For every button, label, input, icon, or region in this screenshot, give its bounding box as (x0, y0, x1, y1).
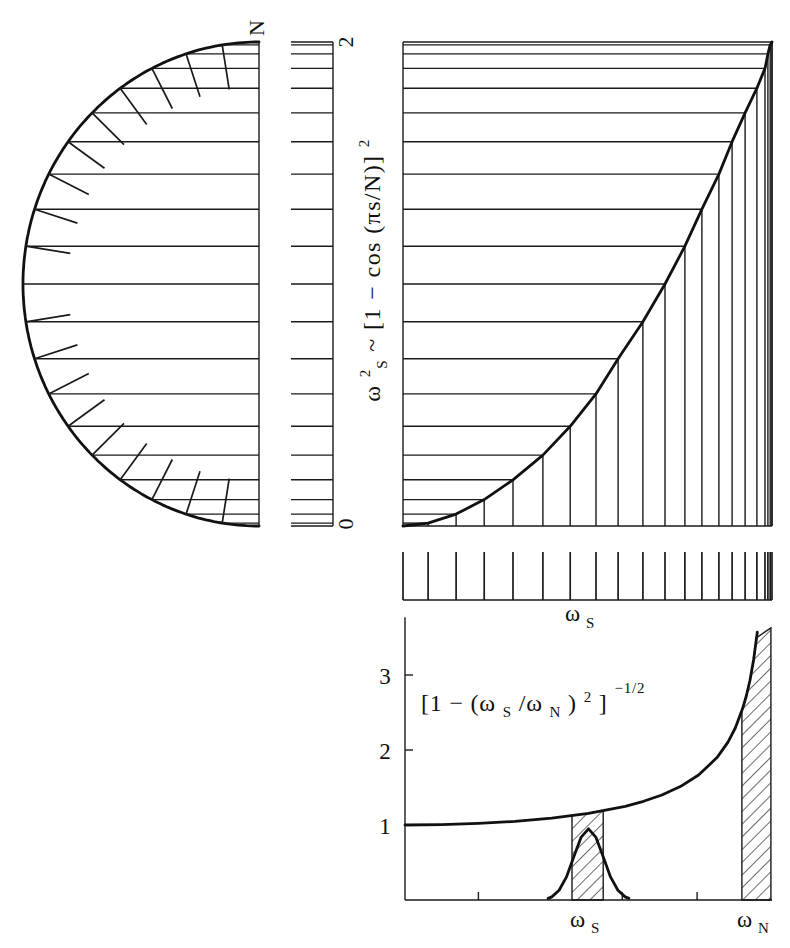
radial-tick (222, 45, 229, 89)
subscript: S (586, 615, 594, 631)
amplitude-curve (405, 632, 757, 825)
amplitude-geometry (405, 617, 772, 900)
dispersion-geometry (403, 42, 772, 526)
dispersion-plot (403, 42, 772, 526)
superscript: 2 (584, 689, 592, 705)
radial-tick (26, 315, 71, 322)
level-scale-bar: 2 0 ω 2 S ~ [1 − cos (πs/N)] 2 (291, 37, 392, 530)
superscript: 2 (356, 138, 372, 147)
formula-close: ) (568, 690, 577, 716)
subscript: N (550, 704, 562, 720)
radial-tick (120, 88, 147, 124)
curve-formula-label: [1 − (ω S /ω N ) 2 ] −1/2 (421, 680, 645, 722)
scale-bottom-tick-label: 0 (333, 519, 358, 530)
formula-bracket: ] (599, 690, 608, 716)
radial-tick (92, 423, 124, 455)
radial-tick (120, 443, 147, 479)
omega-symbol: ω (737, 907, 752, 932)
superscript: 2 (357, 368, 373, 377)
hatched-band-2 (742, 628, 771, 900)
subscript: S (591, 920, 599, 936)
semicircle-geometry (23, 42, 259, 526)
radial-tick (26, 246, 71, 253)
omega-symbol: ω (359, 385, 385, 402)
radial-tick (49, 174, 89, 195)
subscript: S (374, 359, 390, 369)
figure: N 2 0 ω 2 S ~ [1 − cos (πs/N)] 2 ω S 3 2… (0, 0, 790, 948)
x-label-omega-n: ω N (737, 907, 769, 936)
frequency-tick-bar: ω S (403, 552, 772, 631)
radial-tick (68, 400, 104, 427)
x-label-omega-s: ω S (570, 907, 599, 936)
radial-tick (68, 142, 104, 169)
hatched-band-1 (572, 811, 603, 901)
semicircle-top-label: N (244, 20, 269, 36)
radial-tick (222, 479, 229, 523)
radial-tick (35, 345, 78, 359)
semicircle-panel: N (23, 20, 269, 526)
y-tick-label-1: 1 (379, 814, 391, 839)
formula-open: [1 − (ω (421, 690, 496, 716)
dispersion-y-axis-label: ω 2 S ~ [1 − cos (πs/N)] 2 (349, 138, 392, 402)
omega-symbol: ω (570, 907, 585, 932)
subscript: S (503, 704, 512, 720)
amplitude-plot: 3 2 1 [1 − (ω S /ω N ) 2 ] −1/2 ω S ω N (379, 617, 772, 936)
radial-tick (49, 373, 89, 394)
radial-tick (92, 113, 124, 145)
tick-bar-x-label: ω S (565, 601, 594, 631)
tick-bar-geometry (403, 552, 772, 600)
scale-bar-geometry (291, 42, 333, 526)
y-tick-label-3: 3 (379, 664, 391, 689)
subscript: N (758, 920, 769, 936)
formula-mid: /ω (519, 690, 543, 716)
y-tick-label-2: 2 (379, 739, 391, 764)
radial-tick (35, 209, 78, 223)
label-expression: ~ [1 − cos (πs/N)] (359, 155, 385, 352)
omega-symbol: ω (565, 601, 580, 626)
radial-tick (186, 54, 200, 97)
scale-top-tick-label: 2 (333, 37, 358, 48)
radial-tick (186, 471, 200, 514)
exponent: −1/2 (614, 680, 645, 696)
